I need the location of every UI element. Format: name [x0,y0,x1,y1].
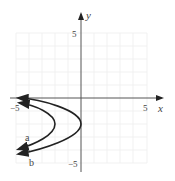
curve-a [20,103,55,124]
x-axis-label: x [157,102,163,114]
y-tick-neg: −5 [68,159,78,169]
y-axis-label: y [85,9,91,21]
x-tick-neg: −5 [10,103,20,113]
parabola-graph: x y 5 −5 5 −5 a b [0,0,175,181]
y-tick-pos: 5 [72,29,77,39]
curve-a-label: a [25,132,30,143]
x-tick-pos: 5 [143,103,148,113]
curve-b-label: b [29,157,34,168]
